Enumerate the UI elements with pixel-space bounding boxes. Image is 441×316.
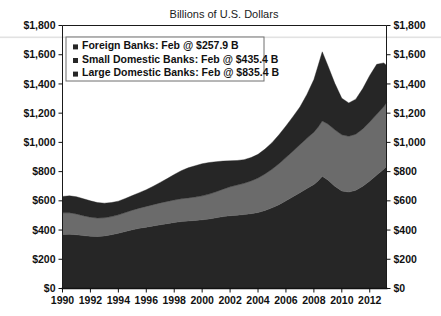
y-axis-label-left-9: $1,800 <box>23 19 55 31</box>
y-axis-label-right-9: $1,800 <box>394 19 426 31</box>
x-axis-label-3: 1996 <box>135 294 159 306</box>
legend-label-2: Large Domestic Banks: Feb @ $835.4 B <box>82 66 279 78</box>
x-axis-label-11: 2012 <box>358 294 382 306</box>
x-axis-label-0: 1990 <box>51 294 75 306</box>
chart-legend: Foreign Banks: Feb @ $257.9 BSmall Domes… <box>66 37 279 81</box>
x-axis-label-7: 2004 <box>246 294 270 306</box>
y-axis-label-right-6: $1,200 <box>394 107 426 119</box>
x-axis-label-5: 2000 <box>190 294 214 306</box>
legend-marker-1 <box>73 58 78 63</box>
x-axis-label-6: 2002 <box>218 294 242 306</box>
x-axis-label-9: 2008 <box>302 294 326 306</box>
y-axis-label-right-1: $200 <box>394 253 418 265</box>
stacked-area-chart: Billions of U.S. Dollars $0$0$200$200$40… <box>0 0 441 316</box>
y-axis-label-left-0: $0 <box>44 282 56 294</box>
legend-marker-0 <box>73 44 78 49</box>
y-axis-label-left-5: $1,000 <box>23 136 55 148</box>
y-axis-label-left-7: $1,400 <box>23 78 55 90</box>
y-axis-label-left-6: $1,200 <box>23 107 55 119</box>
x-axis-label-8: 2006 <box>274 294 298 306</box>
y-axis-label-left-1: $200 <box>32 253 56 265</box>
y-axis-label-right-0: $0 <box>394 282 406 294</box>
chart-container: Billions of U.S. Dollars $0$0$200$200$40… <box>0 0 441 316</box>
y-axis-label-right-5: $1,000 <box>394 136 426 148</box>
x-axis-label-2: 1994 <box>107 294 131 306</box>
y-axis-label-right-4: $800 <box>394 165 418 177</box>
y-axis-label-right-8: $1,600 <box>394 48 426 60</box>
y-axis-label-right-2: $400 <box>394 224 418 236</box>
x-axis-label-10: 2010 <box>330 294 354 306</box>
y-axis-label-left-4: $800 <box>32 165 56 177</box>
legend-label-1: Small Domestic Banks: Feb @ $435.4 B <box>82 53 279 65</box>
y-axis-label-right-3: $600 <box>394 194 418 206</box>
legend-label-0: Foreign Banks: Feb @ $257.9 B <box>82 39 239 51</box>
x-axis-label-4: 1998 <box>163 294 187 306</box>
y-axis-label-left-8: $1,600 <box>23 48 55 60</box>
y-axis-label-left-3: $600 <box>32 194 56 206</box>
y-axis-label-right-7: $1,400 <box>394 78 426 90</box>
x-axis-label-1: 1992 <box>79 294 103 306</box>
y-axis-label-left-2: $400 <box>32 224 56 236</box>
legend-marker-2 <box>73 72 78 77</box>
chart-title: Billions of U.S. Dollars <box>170 8 279 20</box>
